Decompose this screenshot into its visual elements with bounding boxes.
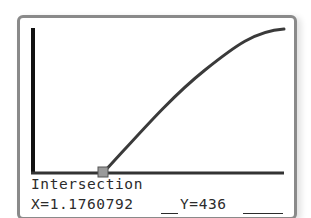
y-readout: Y=436 — [180, 196, 227, 212]
calculator-graph-screen: Intersection X=1.1760792 Y=436 — [17, 15, 297, 218]
underline-before-y — [161, 213, 178, 214]
function-curve — [104, 29, 284, 172]
underline-after-y — [243, 213, 283, 214]
x-readout: X=1.1760792 — [31, 196, 134, 212]
result-title: Intersection — [31, 176, 143, 192]
